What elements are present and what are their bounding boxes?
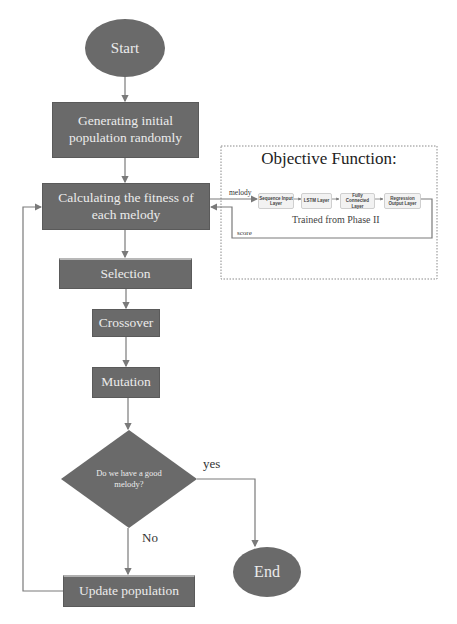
yes-label: yes	[203, 456, 220, 472]
objective-function-title: Objective Function:	[221, 149, 437, 169]
decision-label: Do we have a good melody?	[86, 468, 172, 489]
melody-input-label: melody	[229, 188, 252, 197]
mutation-label: Mutation	[101, 374, 151, 391]
mutation-node: Mutation	[92, 367, 160, 398]
generate-population-node: Generating initial population randomly	[52, 102, 199, 158]
score-output-label: score	[237, 229, 252, 237]
lstm-layer: LSTM Layer	[301, 193, 332, 209]
update-population-label: Update population	[79, 583, 179, 600]
end-label: End	[254, 562, 280, 582]
generate-population-label: Generating initial population randomly	[67, 113, 184, 147]
selection-label: Selection	[100, 266, 150, 283]
selection-node: Selection	[59, 258, 192, 289]
regression-output-layer: Regression Output Layer	[384, 193, 421, 209]
decision-node: Do we have a good melody?	[86, 462, 172, 496]
trained-subtitle: Trained from Phase II	[292, 214, 380, 225]
start-label: Start	[111, 39, 139, 58]
connectors-layer	[0, 0, 457, 624]
no-label: No	[142, 530, 158, 546]
end-node: End	[233, 547, 301, 597]
calculate-fitness-label: Calculating the fitness of each melody	[53, 190, 199, 224]
sequence-input-layer: Sequence Input Layer	[258, 193, 294, 209]
start-node: Start	[85, 19, 165, 77]
crossover-node: Crossover	[92, 309, 160, 337]
fully-connected-layer: Fully Connected Layer	[340, 193, 375, 209]
crossover-label: Crossover	[99, 315, 154, 332]
calculate-fitness-node: Calculating the fitness of each melody	[42, 183, 210, 230]
update-population-node: Update population	[63, 575, 195, 607]
